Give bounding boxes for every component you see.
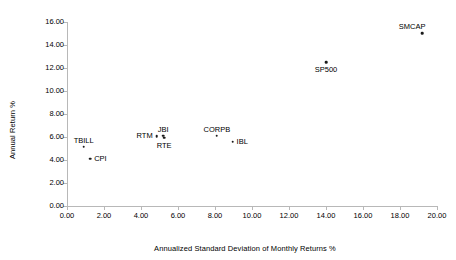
data-point: [325, 61, 328, 64]
y-tick-label: 2.00: [49, 179, 64, 187]
x-tick-mark: [67, 206, 68, 210]
x-axis-title: Annualized Standard Deviation of Monthly…: [0, 244, 456, 253]
data-point: [82, 145, 85, 148]
y-tick-label: 10.00: [45, 87, 64, 95]
x-tick-mark: [326, 206, 327, 210]
x-tick-mark: [400, 206, 401, 210]
data-point-label: IBL: [237, 138, 248, 146]
plot-area: 0.002.004.006.008.0010.0012.0014.0016.00…: [67, 22, 437, 206]
x-tick-mark: [215, 206, 216, 210]
data-point-label: RTE: [157, 142, 172, 150]
y-tick-label: 6.00: [49, 133, 64, 141]
data-point: [89, 158, 92, 161]
scatter-chart: Annual Return % 0.002.004.006.008.0010.0…: [0, 0, 456, 260]
x-tick-label: 16.00: [354, 212, 373, 220]
y-axis-title: Annual Return %: [8, 70, 17, 190]
x-tick-mark: [289, 206, 290, 210]
x-tick-mark: [141, 206, 142, 210]
x-tick-label: 12.00: [280, 212, 299, 220]
data-point-label: SMCAP: [399, 22, 426, 30]
x-tick-mark: [104, 206, 105, 210]
data-point-label: CORPB: [204, 125, 231, 133]
y-tick-label: 8.00: [49, 110, 64, 118]
data-point: [163, 136, 166, 139]
y-tick-label: 16.00: [45, 18, 64, 26]
x-tick-label: 20.00: [428, 212, 447, 220]
data-point-label: TBILL: [74, 136, 94, 144]
x-tick-label: 2.00: [97, 212, 112, 220]
y-tick-label: 0.00: [49, 202, 64, 210]
data-point: [155, 135, 158, 138]
x-tick-label: 18.00: [391, 212, 410, 220]
y-tick-label: 4.00: [49, 156, 64, 164]
x-tick-mark: [252, 206, 253, 210]
data-point: [231, 140, 234, 143]
y-tick-label: 12.00: [45, 64, 64, 72]
data-point-label: JBI: [158, 125, 169, 133]
x-tick-label: 10.00: [243, 212, 262, 220]
data-point-label: CPI: [94, 155, 107, 163]
y-tick-label: 14.00: [45, 41, 64, 49]
x-tick-mark: [178, 206, 179, 210]
x-tick-mark: [363, 206, 364, 210]
data-point: [216, 135, 219, 138]
data-point-label: SP500: [315, 66, 338, 74]
x-tick-label: 14.00: [317, 212, 336, 220]
x-tick-label: 6.00: [171, 212, 186, 220]
x-tick-label: 0.00: [60, 212, 75, 220]
x-tick-label: 8.00: [208, 212, 223, 220]
x-tick-mark: [437, 206, 438, 210]
x-tick-label: 4.00: [134, 212, 149, 220]
data-point: [421, 32, 424, 35]
data-point-label: RTM: [137, 133, 153, 141]
